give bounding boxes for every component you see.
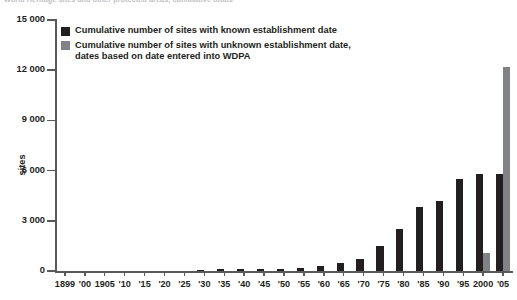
y-tick-label: 12 000 (0, 64, 45, 74)
x-tick-mark (403, 272, 404, 276)
bar-known-50 (277, 269, 284, 272)
x-tick-mark (243, 272, 244, 276)
y-tick-label: 15 000 (0, 14, 45, 24)
bar-group (496, 19, 510, 271)
bar-unknown-2000 (483, 253, 490, 271)
bar-group (356, 19, 370, 271)
chart-legend: Cumulative number of sites with known es… (61, 25, 351, 66)
x-tick-mark (104, 272, 105, 276)
legend-swatch-known-icon (61, 27, 70, 36)
bar-known-45 (257, 269, 264, 271)
x-tick-mark (204, 272, 205, 276)
x-tick-mark (224, 272, 225, 276)
y-tick-label: 3 000 (0, 215, 45, 225)
bar-known-75 (376, 246, 383, 271)
x-tick-mark (443, 272, 444, 276)
bar-known-2000 (476, 174, 483, 271)
x-tick-mark (144, 272, 145, 276)
bar-unknown-05 (503, 67, 510, 271)
bar-known-85 (416, 207, 423, 271)
legend-swatch-unknown-icon (61, 41, 70, 50)
bar-group (416, 19, 430, 271)
bar-group (436, 19, 450, 271)
bar-known-35 (217, 269, 224, 271)
x-tick-mark (502, 272, 503, 276)
legend-item-known: Cumulative number of sites with known es… (61, 25, 351, 37)
bar-group (376, 19, 390, 271)
bar-known-65 (337, 263, 344, 271)
x-tick-mark (423, 272, 424, 276)
x-tick-mark (84, 272, 85, 276)
x-tick-mark (283, 272, 284, 276)
x-tick-mark (482, 272, 483, 276)
bar-known-95 (456, 179, 463, 271)
bar-group (456, 19, 470, 271)
y-tick-label: 9 000 (0, 114, 45, 124)
x-tick-mark (164, 272, 165, 276)
legend-label-known: Cumulative number of sites with known es… (75, 25, 337, 37)
bar-known-05 (496, 174, 503, 271)
x-tick-mark (263, 272, 264, 276)
x-tick-mark (124, 272, 125, 276)
bar-known-30 (197, 270, 204, 271)
legend-label-unknown: Cumulative number of sites with unknown … (75, 40, 351, 63)
bar-known-80 (396, 229, 403, 271)
legend-item-unknown: Cumulative number of sites with unknown … (61, 40, 351, 63)
bar-known-55 (297, 268, 304, 271)
x-tick-mark (363, 272, 364, 276)
cut-off-caption-text: World Heritage sites and other protected… (4, 0, 233, 4)
x-tick-label: '05 (489, 279, 517, 289)
cut-off-caption-strip: World Heritage sites and other protected… (0, 0, 517, 9)
bar-group (476, 19, 490, 271)
x-tick-mark (64, 272, 65, 276)
bar-known-70 (356, 259, 363, 271)
y-tick-label: 0 (0, 265, 45, 275)
x-tick-mark (343, 272, 344, 276)
y-tick-label: 6 000 (0, 165, 45, 175)
x-tick-mark (463, 272, 464, 276)
x-tick-mark (303, 272, 304, 276)
bar-known-60 (317, 266, 324, 271)
bar-known-90 (436, 201, 443, 271)
x-tick-mark (184, 272, 185, 276)
x-tick-mark (323, 272, 324, 276)
x-tick-mark (383, 272, 384, 276)
bar-group (396, 19, 410, 271)
chart-container: World Heritage sites and other protected… (0, 0, 517, 300)
bar-known-40 (237, 269, 244, 271)
